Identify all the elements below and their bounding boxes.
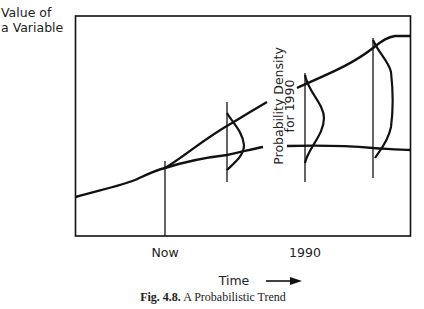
caption-text: A Probabilistic Trend [183,290,286,304]
caption-number: Fig. 4.8. [140,290,181,304]
upper-branch-curve [165,102,267,168]
density-curve-1990 [305,75,324,163]
plot-frame [76,16,411,236]
x-tick-1990: 1990 [289,245,321,260]
density-label: Probability Density for 1990 [273,47,295,165]
figure-caption: Fig. 4.8. A Probabilistic Trend [140,290,286,305]
density-curve-3 [373,40,393,158]
upper-branch-curve-continued [297,36,411,88]
x-axis-label: Time [219,273,250,288]
trend-history-curve [76,168,166,197]
x-tick-now: Now [151,245,178,260]
trend-diagram [0,0,424,309]
right-arrow-icon [266,277,302,285]
